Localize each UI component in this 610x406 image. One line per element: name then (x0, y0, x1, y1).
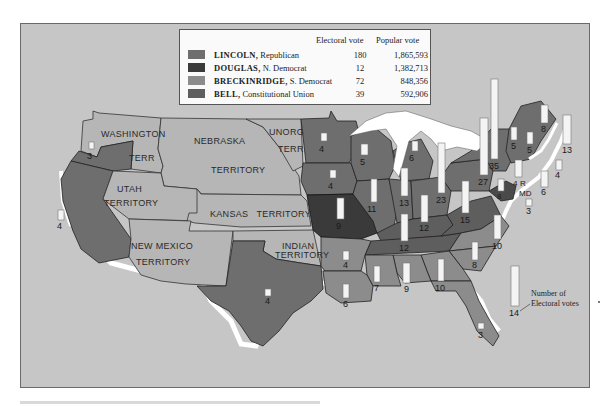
ev-texas: 4 (265, 296, 270, 306)
label-nebraska-territory: TERRITORY (211, 165, 265, 175)
legend-swatch-breckinridge (188, 76, 205, 85)
candidate-party: Constitutional Union (242, 89, 314, 99)
candidate-electoral-vote: 12 (350, 63, 370, 73)
ev-wisconsin: 5 (360, 157, 365, 167)
ev-south-carolina: 8 (472, 260, 477, 270)
candidate-party: S. Democrat (290, 76, 333, 86)
ev-alabama: 9 (404, 284, 409, 294)
label-washington-terr: TERR (129, 153, 155, 163)
ev-iowa: 4 (328, 181, 333, 191)
candidate-party: N. Democrat (263, 63, 307, 73)
ev-arkansas: 4 (343, 260, 348, 270)
label-nebraska: NEBRASKA (194, 136, 245, 146)
cutoff-caption (20, 398, 320, 406)
ev-indiana: 13 (399, 198, 409, 208)
annotation-sample-value: 14 (509, 308, 519, 318)
candidate-name: LINCOLN, (214, 50, 258, 60)
stray-mark (598, 301, 600, 303)
ev-delaware: 3 (526, 206, 531, 216)
ev-oregon: 3 (87, 151, 92, 161)
ev-georgia: 10 (435, 283, 445, 293)
annotation-line-1: Number of (531, 289, 566, 298)
legend-row-breckinridge: BRECKINRIDGE, S. Democrat 72 848,356 (188, 76, 428, 86)
label-new-mexico: NEW MEXICO (131, 241, 193, 251)
legend-row-lincoln: LINCOLN, Republican 180 1,865,593 (188, 50, 428, 60)
kansas-territory (187, 189, 311, 227)
ev-new-york: 35 (489, 161, 499, 171)
legend-header-electoral: Electoral vote (316, 35, 363, 45)
ev-california: 4 (57, 221, 62, 231)
label-kansas-territory: KANSAS TERRITORY (210, 209, 311, 219)
candidate-electoral-vote: 39 (350, 89, 370, 99)
ev-new-jersey: 4 (513, 179, 518, 188)
ev-maine: 8 (541, 124, 546, 134)
ev-missouri: 9 (336, 221, 341, 231)
candidate-party: Republican (260, 50, 299, 60)
ev-rhode-island: 4 (555, 170, 560, 180)
legend-swatch-bell (188, 89, 205, 98)
annotation-line-2: Electoral votes (531, 299, 579, 308)
label-utah-territory: TERRITORY (104, 198, 158, 208)
candidate-name: DOUGLAS, (214, 63, 261, 73)
candidate-popular-vote: 1,382,713 (384, 63, 428, 73)
ev-minnesota: 4 (319, 144, 324, 154)
ev-connecticut: 6 (541, 187, 546, 197)
ev-ohio: 23 (436, 195, 446, 205)
candidate-electoral-vote: 180 (350, 50, 370, 60)
candidate-name: BELL, (214, 89, 240, 99)
candidate-name: BRECKINRIDGE, (214, 76, 288, 86)
candidate-popular-vote: 592,906 (384, 89, 428, 99)
label-ri-abbrev: R (520, 179, 526, 188)
legend-swatch-douglas (188, 63, 205, 72)
label-indian-territory: TERRITORY (275, 250, 329, 260)
candidate-popular-vote: 1,865,593 (384, 50, 428, 60)
ev-michigan: 6 (409, 153, 414, 163)
label-unorg: UNORG (269, 127, 304, 137)
legend-swatch-lincoln (188, 50, 205, 59)
ev-florida: 3 (478, 330, 483, 340)
ev-louisiana: 6 (343, 299, 348, 309)
legend-row-bell: BELL, Constitutional Union 39 592,906 (188, 89, 428, 99)
ev-mississippi: 7 (374, 283, 379, 293)
ev-new-hampshire: 5 (527, 145, 532, 155)
ev-kentucky: 12 (419, 223, 429, 233)
ev-illinois: 11 (367, 204, 376, 214)
label-new-mexico-territory: TERRITORY (136, 257, 190, 267)
legend-row-douglas: DOUGLAS, N. Democrat 12 1,382,713 (188, 63, 428, 73)
election-map-1860: WASHINGTON TERR NEBRASKA TERRITORY UNORG… (20, 23, 590, 388)
legend-box: Electoral vote Popular vote LINCOLN, Rep… (179, 29, 431, 105)
ev-pennsylvania: 27 (478, 177, 488, 187)
label-unorg-terr: TERR (278, 144, 304, 154)
ev-vermont: 5 (511, 141, 516, 151)
legend-header-popular: Popular vote (376, 35, 419, 45)
candidate-popular-vote: 848,356 (384, 76, 428, 86)
ev-massachusetts: 13 (562, 145, 572, 155)
ev-tennessee: 12 (399, 243, 409, 253)
label-utah: UTAH (117, 184, 142, 194)
candidate-electoral-vote: 72 (350, 76, 370, 86)
ev-north-carolina: 10 (492, 241, 502, 251)
label-washington: WASHINGTON (101, 129, 166, 139)
ev-maryland: 8 (497, 192, 502, 201)
new-mexico-territory (129, 219, 233, 286)
label-md-abbrev: MD (519, 189, 532, 198)
ev-virginia: 15 (460, 215, 470, 225)
